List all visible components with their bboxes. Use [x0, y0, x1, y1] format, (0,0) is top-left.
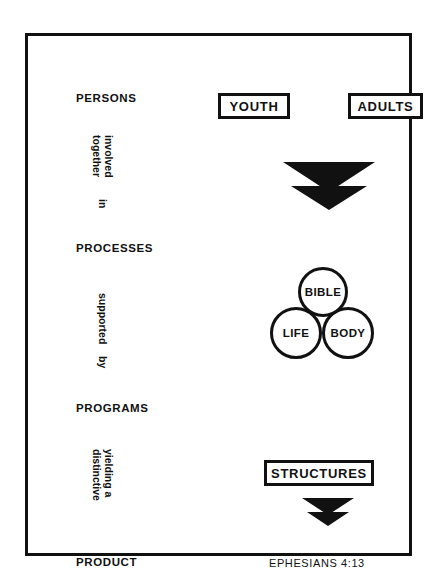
diagram-canvas: PERSONS PROCESSES PROGRAMS PRODUCT invol…	[0, 0, 437, 588]
circle-life-label: LIFE	[283, 327, 310, 339]
venn-diagram-processes: BIBLE LIFE BODY	[268, 267, 376, 365]
connector-text-in: in	[96, 199, 108, 208]
stage-label-product: PRODUCT	[76, 557, 137, 569]
diagram-frame: PERSONS PROCESSES PROGRAMS PRODUCT invol…	[25, 33, 412, 556]
connector-line-together: together	[91, 135, 103, 178]
double-chevron-down-icon-small	[302, 498, 354, 526]
circle-bible: BIBLE	[298, 267, 348, 317]
connector-line-involved: involved	[102, 135, 114, 178]
term-box-youth-label: YOUTH	[230, 99, 279, 114]
stage-label-programs: PROGRAMS	[76, 403, 149, 415]
term-box-adults-label: ADULTS	[358, 99, 414, 114]
connector-line-by: by	[96, 356, 108, 368]
connector-line-in: in	[96, 199, 108, 208]
term-box-structures: STRUCTURES	[264, 460, 374, 486]
circle-body-label: BODY	[331, 327, 366, 339]
connector-text-yielding-distinctive: yielding a distinctive	[91, 449, 115, 501]
stage-label-processes: PROCESSES	[76, 243, 153, 255]
connector-line-yielding-a: yielding a	[102, 449, 114, 501]
term-box-youth: YOUTH	[218, 93, 290, 119]
connector-text-supported: supported	[96, 293, 108, 344]
circle-bible-label: BIBLE	[305, 286, 342, 298]
connector-text-by: by	[96, 356, 108, 368]
scripture-reference: EPHESIANS 4:13	[269, 557, 365, 569]
double-chevron-down-icon	[283, 162, 375, 210]
term-box-structures-label: STRUCTURES	[271, 466, 367, 481]
term-box-adults: ADULTS	[348, 93, 423, 119]
stage-label-persons: PERSONS	[76, 93, 136, 105]
connector-line-distinctive: distinctive	[91, 449, 103, 501]
connector-text-involved-together: involved together	[91, 135, 115, 178]
connector-line-supported: supported	[96, 293, 108, 344]
